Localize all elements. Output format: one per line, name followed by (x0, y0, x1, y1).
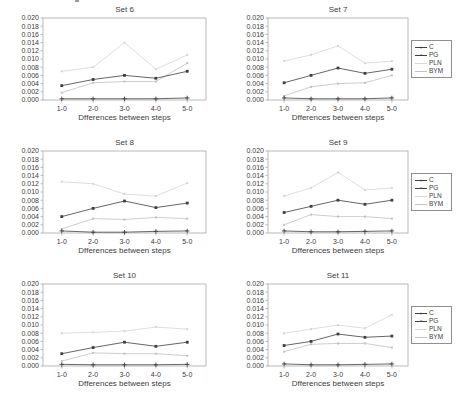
marker-dot (61, 181, 63, 183)
marker-dot (61, 92, 63, 94)
marker-dot (92, 66, 94, 68)
chart-set-9: Set 9 0.0000.0020.0040.0060.0080.0100.01… (233, 133, 466, 266)
y-tick-label: 0.002 (21, 354, 39, 361)
y-tick-label: 0.006 (246, 338, 264, 345)
legend-line-sample: + (415, 44, 427, 51)
series-line-PG (284, 200, 392, 212)
chart-grid: Set 6 0.0000.0020.0040.0060.0080.0100.01… (0, 0, 466, 398)
marker-dot (364, 62, 366, 64)
legend-line-sample: ▪ (415, 185, 427, 192)
y-tick-label: 0.000 (21, 96, 39, 103)
chart-set-11: Set 11 0.0000.0020.0040.0060.0080.0100.0… (233, 266, 466, 398)
figure-canvas: Set 6 0.0000.0020.0040.0060.0080.0100.01… (0, 0, 466, 398)
x-tick-label: 2-0 (306, 371, 316, 378)
x-tick-label: 2-0 (306, 105, 316, 112)
x-tick-label: 3-0 (333, 105, 343, 112)
x-tick-label: 3-0 (119, 238, 129, 245)
square-marker-icon: ▪ (417, 184, 425, 192)
legend-label: PLN (429, 192, 442, 200)
legend-entry-bym: BYM (415, 67, 449, 75)
marker-dot (124, 218, 126, 220)
y-tick-label: 0.010 (246, 321, 264, 328)
x-tick-label: 5-0 (387, 371, 397, 378)
marker-square (364, 72, 367, 75)
marker-dot (337, 171, 339, 173)
y-tick-label: 0.006 (21, 205, 39, 212)
series-line-PLN (284, 315, 392, 333)
x-tick-label: 4-0 (360, 238, 370, 245)
chart-title: Set 8 (43, 138, 206, 147)
marker-dot (391, 347, 393, 349)
legend-label: PG (429, 51, 438, 59)
x-tick-label: 1-0 (57, 105, 67, 112)
marker-dot (364, 327, 366, 329)
legend-entry-pln: PLN (415, 59, 449, 67)
y-tick-label: 0.008 (21, 330, 39, 337)
plot-area-svg: 0.0000.0020.0040.0060.0080.0100.0120.014… (0, 15, 233, 113)
y-tick-label: 0.008 (246, 64, 264, 71)
marker-dot (186, 328, 188, 330)
chart-set-8: Set 8 0.0000.0020.0040.0060.0080.0100.01… (0, 133, 233, 266)
marker-square (186, 341, 189, 344)
marker-square (283, 81, 286, 84)
legend-line-sample: + (415, 310, 427, 317)
marker-dot (391, 187, 393, 189)
y-tick-label: 0.010 (21, 321, 39, 328)
marker-square (154, 77, 157, 80)
marker-square (92, 207, 95, 210)
y-tick-label: 0.016 (21, 164, 39, 171)
x-axis-label: Dfferences between steps (43, 246, 206, 255)
y-tick-label: 0.014 (246, 39, 264, 46)
marker-dot (61, 70, 63, 72)
marker-dot (310, 86, 312, 88)
y-tick-label: 0.000 (21, 362, 39, 369)
marker-square (154, 345, 157, 348)
legend-label: PG (429, 317, 438, 325)
y-tick-label: 0.020 (246, 281, 264, 287)
legend-label: BYM (429, 333, 443, 341)
series-line-BYM (62, 63, 188, 93)
legend-line-sample: + (415, 177, 427, 184)
legend-entry-bym: BYM (415, 200, 449, 208)
y-tick-label: 0.008 (246, 330, 264, 337)
legend-label: PLN (429, 325, 442, 333)
legend-label: PLN (429, 59, 442, 67)
chart-set-6: Set 6 0.0000.0020.0040.0060.0080.0100.01… (0, 0, 233, 133)
legend-box: + C ▪ PG PLN BYM (411, 40, 452, 78)
legend-entry-pln: PLN (415, 325, 449, 333)
marker-square (60, 84, 63, 87)
x-tick-label: 3-0 (119, 371, 129, 378)
x-tick-label: 3-0 (333, 371, 343, 378)
y-tick-label: 0.002 (246, 88, 264, 95)
marker-dot (364, 82, 366, 84)
marker-dot (283, 332, 285, 334)
y-tick-label: 0.008 (21, 64, 39, 71)
series-line-PLN (284, 46, 392, 63)
y-tick-label: 0.000 (246, 229, 264, 236)
x-tick-label: 2-0 (88, 238, 98, 245)
marker-dot (283, 224, 285, 226)
y-tick-label: 0.016 (21, 31, 39, 38)
marker-square (337, 333, 340, 336)
series-line-PLN (284, 172, 392, 196)
legend-entry-pln: PLN (415, 192, 449, 200)
y-tick-label: 0.006 (21, 338, 39, 345)
y-tick-label: 0.018 (246, 289, 264, 296)
marker-dot (310, 328, 312, 330)
y-tick-label: 0.002 (21, 221, 39, 228)
legend-entry-pg: ▪ PG (415, 51, 449, 59)
y-tick-label: 0.002 (246, 354, 264, 361)
x-axis-label: Dfferences between steps (268, 246, 408, 255)
y-tick-label: 0.008 (246, 197, 264, 204)
x-tick-label: 5-0 (182, 371, 192, 378)
legend-line-sample: ▪ (415, 318, 427, 325)
y-tick-label: 0.004 (246, 80, 264, 87)
y-tick-label: 0.020 (21, 148, 39, 154)
marker-dot (92, 331, 94, 333)
legend-line-sample (415, 60, 427, 67)
marker-square (186, 70, 189, 73)
marker-dot (337, 324, 339, 326)
marker-dot (364, 342, 366, 344)
x-tick-label: 4-0 (151, 371, 161, 378)
marker-dot (155, 353, 157, 355)
